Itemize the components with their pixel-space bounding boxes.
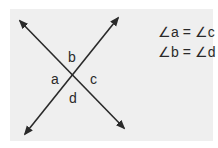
angle-label-c: c (90, 71, 97, 87)
line-ascending (25, 18, 118, 134)
angle-label-d: d (69, 90, 77, 106)
angle-label-b: b (68, 49, 76, 65)
intersecting-lines-diagram: b a c d (0, 0, 218, 148)
equation-b-equals-d: ∠b = ∠d (158, 44, 216, 60)
angle-label-a: a (51, 71, 59, 87)
equation-a-equals-c: ∠a = ∠c (158, 24, 215, 40)
